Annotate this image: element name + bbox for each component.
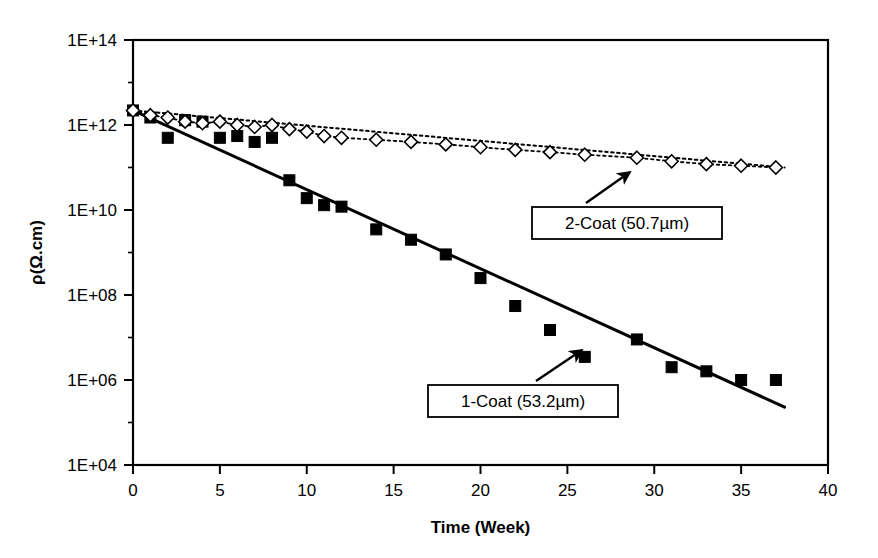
x-axis-title: Time (Week) xyxy=(431,518,531,537)
y-axis-tick-label: 1E+12 xyxy=(67,116,117,135)
resistivity-vs-time-chart: 1E+041E+061E+081E+101E+121E+140510152025… xyxy=(0,0,878,558)
data-point-marker xyxy=(701,366,712,377)
data-point-marker xyxy=(475,273,486,284)
data-point-marker xyxy=(770,375,781,386)
annotation-label: 1-Coat (53.2µm) xyxy=(461,392,585,411)
y-axis-tick-label: 1E+14 xyxy=(67,31,117,50)
data-point-marker xyxy=(214,132,225,143)
y-axis-tick-label: 1E+06 xyxy=(67,371,117,390)
data-point-marker xyxy=(631,334,642,345)
x-axis-tick-label: 20 xyxy=(471,481,490,500)
y-axis-tick-label: 1E+04 xyxy=(67,456,117,475)
x-axis-tick-label: 30 xyxy=(645,481,664,500)
y-axis-tick-label: 1E+10 xyxy=(67,201,117,220)
data-point-marker xyxy=(666,362,677,373)
x-axis-tick-label: 0 xyxy=(128,481,137,500)
x-axis-tick-label: 15 xyxy=(384,481,403,500)
data-point-marker xyxy=(249,136,260,147)
chart-figure: 1E+041E+061E+081E+101E+121E+140510152025… xyxy=(0,0,878,558)
data-point-marker xyxy=(267,132,278,143)
data-point-marker xyxy=(319,200,330,211)
data-point-marker xyxy=(406,234,417,245)
data-point-marker xyxy=(440,249,451,260)
data-point-marker xyxy=(301,193,312,204)
y-axis-title: ρ(Ω.cm) xyxy=(27,220,46,285)
data-point-marker xyxy=(579,351,590,362)
data-point-marker xyxy=(545,325,556,336)
x-axis-tick-label: 35 xyxy=(732,481,751,500)
data-point-marker xyxy=(371,224,382,235)
data-point-marker xyxy=(162,132,173,143)
data-point-marker xyxy=(736,375,747,386)
data-point-marker xyxy=(510,301,521,312)
x-axis-tick-label: 10 xyxy=(297,481,316,500)
data-point-marker xyxy=(284,175,295,186)
x-axis-tick-label: 5 xyxy=(215,481,224,500)
data-point-marker xyxy=(336,201,347,212)
annotation-label: 2-Coat (50.7µm) xyxy=(565,214,689,233)
x-axis-tick-label: 25 xyxy=(558,481,577,500)
x-axis-tick-label: 40 xyxy=(819,481,838,500)
y-axis-tick-label: 1E+08 xyxy=(67,286,117,305)
